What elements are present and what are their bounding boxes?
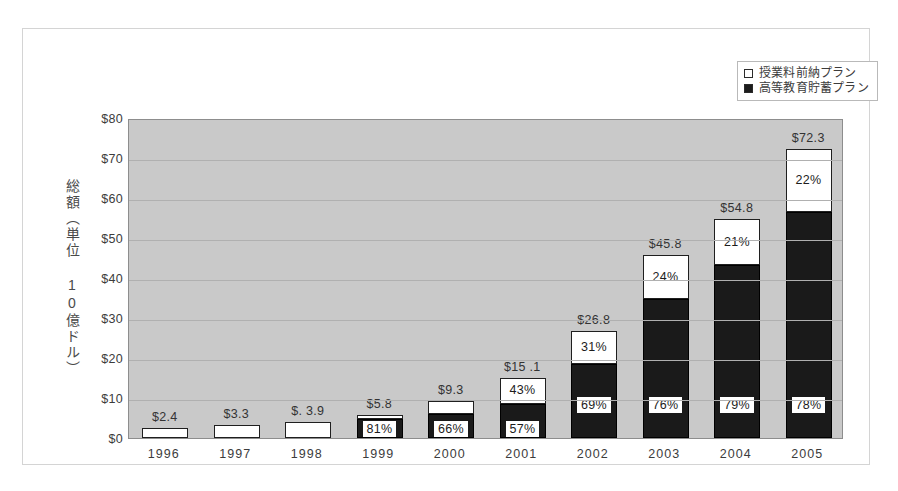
stacked-bar[interactable] [214,425,260,438]
gridline [129,200,842,201]
bar-column[interactable]: 31%69%$26.8 [558,120,630,438]
bar-segment-tuition-prepaid[interactable] [214,425,260,438]
black-square-icon [744,84,753,93]
bar-segment-college-savings[interactable]: 57% [500,404,546,438]
segment-percent-label: 69% [577,397,611,414]
x-axis-tick: 2000 [414,447,486,461]
x-axis-tick: 1996 [128,447,200,461]
stacked-bar[interactable]: 43%57% [500,378,546,438]
y-axis-tick: $70 [79,152,123,166]
gridline [129,160,842,161]
gridline [129,280,842,281]
bar-column[interactable]: $2.4 [129,120,201,438]
y-axis-tick: $30 [79,312,123,326]
x-axis-tick: 2005 [772,447,844,461]
chart-legend: 授業料前納プラン高等教育貯蓄プラン [737,61,878,101]
bar-total-label: $2.4 [152,410,178,424]
stacked-bar[interactable]: 66% [428,401,474,438]
bar-total-label: $. 3.9 [291,404,324,418]
legend-item-label: 高等教育貯蓄プラン [759,81,869,96]
x-axis-tick: 2002 [557,447,629,461]
x-axis-tick-labels: 1996199719981999200020012002200320042005 [128,447,843,471]
gridline [129,360,842,361]
bar-segment-college-savings[interactable]: 69% [571,364,617,438]
legend-item[interactable]: 授業料前納プラン [744,66,869,81]
segment-percent-label: 81% [363,421,397,438]
bar-column[interactable]: 21%79%$54.8 [701,120,773,438]
bar-column[interactable]: $. 3.9 [272,120,344,438]
gridline [129,240,842,241]
stacked-bar[interactable] [285,422,331,438]
bar-segment-tuition-prepaid[interactable]: 22% [786,149,832,213]
bar-total-label: $5.8 [366,397,392,411]
stacked-bar[interactable]: 31%69% [571,331,617,438]
x-axis-tick: 2003 [629,447,701,461]
stacked-bar[interactable] [142,428,188,438]
y-axis-tick: $60 [79,192,123,206]
stacked-bar[interactable]: 24%76% [643,255,689,438]
bar-segment-college-savings[interactable]: 66% [428,414,474,438]
bar-column[interactable]: 24%76%$45.8 [630,120,702,438]
segment-percent-label: 22% [796,174,822,187]
bar-column[interactable]: 43%57%$15 .1 [487,120,559,438]
y-axis-tick: $10 [79,392,123,406]
bar-total-label: $54.8 [720,201,753,215]
bar-column[interactable]: 22%78%$72.3 [773,120,845,438]
bar-segment-tuition-prepaid[interactable] [285,422,331,438]
bar-segment-college-savings[interactable]: 79% [714,265,760,438]
segment-percent-label: 21% [724,236,750,249]
chart-screenshot: 授業料前納プラン高等教育貯蓄プラン 総額（単位 10億ドル） $80$70$60… [0,0,898,491]
bar-column[interactable]: 66%$9.3 [415,120,487,438]
bar-total-label: $3.3 [223,407,249,421]
y-axis-tick: $80 [79,112,123,126]
y-axis-tick: $50 [79,232,123,246]
segment-percent-label: 43% [510,384,536,397]
white-square-icon [744,69,753,78]
bar-total-label: $72.3 [792,131,825,145]
segment-percent-label: 31% [581,341,607,354]
bar-column[interactable]: $3.3 [201,120,273,438]
stacked-bar[interactable]: 22%78% [786,149,832,438]
bar-segment-tuition-prepaid[interactable] [428,401,474,414]
segment-percent-label: 79% [720,397,754,414]
legend-item-label: 授業料前納プラン [759,66,857,81]
bar-total-label: $15 .1 [504,360,541,374]
y-axis-tick-labels: $80$70$60$50$40$30$20$10$0 [75,119,123,439]
y-axis-tick: $20 [79,352,123,366]
x-axis-tick: 1998 [271,447,343,461]
stacked-bar[interactable]: 81% [357,415,403,438]
bar-segment-college-savings[interactable]: 81% [357,419,403,438]
segment-percent-label: 66% [434,421,468,438]
segment-percent-label: 76% [649,397,683,414]
gridline [129,400,842,401]
bar-segment-college-savings[interactable]: 78% [786,212,832,438]
gridline [129,320,842,321]
bar-total-label: $45.8 [649,237,682,251]
chart-frame: 授業料前納プラン高等教育貯蓄プラン 総額（単位 10億ドル） $80$70$60… [22,28,870,465]
x-axis-tick: 1997 [200,447,272,461]
bar-segment-tuition-prepaid[interactable] [142,428,188,438]
stacked-bar[interactable]: 21%79% [714,219,760,438]
segment-percent-label: 57% [506,421,540,438]
bar-segment-tuition-prepaid[interactable]: 24% [643,255,689,299]
bar-segment-tuition-prepaid[interactable]: 21% [714,219,760,265]
bar-series-layer: $2.4$3.3$. 3.981%$5.866%$9.343%57%$15 .1… [129,120,842,438]
x-axis-tick: 1999 [343,447,415,461]
segment-percent-label: 24% [653,271,679,284]
y-axis-tick: $0 [79,432,123,446]
bar-column[interactable]: 81%$5.8 [344,120,416,438]
x-axis-tick: 2004 [700,447,772,461]
bar-total-label: $9.3 [438,383,464,397]
legend-item[interactable]: 高等教育貯蓄プラン [744,81,869,96]
y-axis-tick: $40 [79,272,123,286]
segment-percent-label: 78% [792,397,826,414]
x-axis-tick: 2001 [486,447,558,461]
plot-area: $2.4$3.3$. 3.981%$5.866%$9.343%57%$15 .1… [128,119,843,439]
